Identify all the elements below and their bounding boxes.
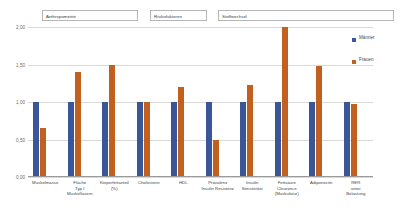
x-axis-line [28, 176, 373, 177]
bar-group [97, 27, 132, 177]
gridline [28, 177, 373, 178]
bar-group [270, 27, 305, 177]
bar-group [201, 27, 236, 177]
y-axis-ticks: 0,000,501,001,502,00 [0, 27, 28, 177]
bar-groups [28, 27, 373, 177]
category-label: RER unter Belastung [335, 180, 378, 197]
legend-label: Männer [359, 35, 375, 40]
bar-maenner [102, 102, 108, 177]
legend-item[interactable]: Frauen [352, 58, 410, 80]
group-box-stoffwechsel: Stoffwechsel [218, 10, 394, 21]
bar-group [132, 27, 167, 177]
bar-frauen [40, 128, 46, 177]
bar-maenner [33, 102, 39, 177]
bar-group [235, 27, 270, 177]
bar-group [63, 27, 98, 177]
bar-frauen [213, 140, 219, 178]
y-axis-tick-label: 0,00 [16, 175, 25, 180]
bar-frauen [109, 65, 115, 178]
legend-label: Frauen [359, 57, 374, 62]
group-header-row: Anthropometrie Risikofaktoren Stoffwechs… [0, 0, 411, 22]
bar-frauen [316, 66, 322, 177]
bar-group [304, 27, 339, 177]
bar-group [28, 27, 63, 177]
bar-maenner [206, 102, 212, 177]
legend-swatch-icon [352, 60, 356, 64]
bar-frauen [75, 72, 81, 177]
legend-swatch-icon [352, 38, 356, 42]
chart-legend: MännerFrauen [352, 36, 410, 80]
group-box-anthropometrie: Anthropometrie [42, 10, 138, 21]
x-axis-category-labels: MuskelmasseFläche Typ I MuskelfasernKörp… [28, 180, 373, 218]
y-axis-tick-label: 1,50 [16, 62, 25, 67]
bar-frauen [351, 104, 357, 177]
bar-maenner [68, 102, 74, 177]
legend-item[interactable]: Männer [352, 36, 410, 58]
bar-maenner [344, 102, 350, 177]
bar-maenner [309, 102, 315, 177]
bar-frauen [178, 87, 184, 177]
group-box-risikofaktoren: Risikofaktoren [150, 10, 207, 21]
y-axis-tick-label: 0,50 [16, 137, 25, 142]
bar-maenner [171, 102, 177, 177]
chart-container: Anthropometrie Risikofaktoren Stoffwechs… [0, 0, 411, 220]
bar-frauen [144, 102, 150, 177]
bar-maenner [275, 102, 281, 177]
y-axis-tick-label: 1,00 [16, 100, 25, 105]
bar-frauen [282, 27, 288, 177]
bar-group [166, 27, 201, 177]
bar-frauen [247, 85, 253, 177]
plot-area [28, 27, 373, 177]
y-axis-tick-label: 2,00 [16, 25, 25, 30]
bar-maenner [240, 102, 246, 177]
bar-maenner [137, 102, 143, 177]
